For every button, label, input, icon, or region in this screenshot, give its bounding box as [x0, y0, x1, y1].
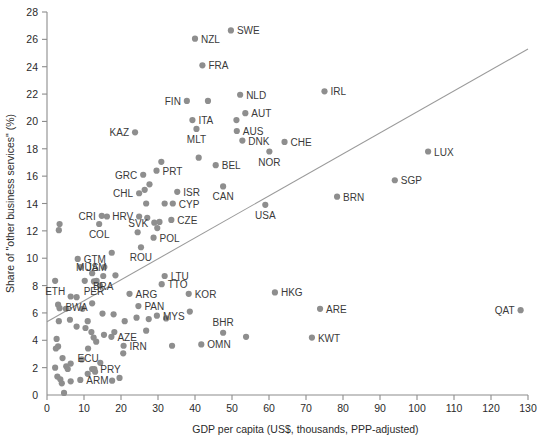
- point-label-mus: MUS: [76, 262, 99, 273]
- data-point: [184, 98, 190, 104]
- data-point: [91, 366, 97, 372]
- y-tick-label: 10: [26, 252, 38, 264]
- x-tick-label: 130: [519, 402, 537, 414]
- data-point: [142, 187, 148, 193]
- x-axis-title: GDP per capita (US$, thousands, PPP-adju…: [192, 423, 418, 435]
- scatter-chart: SWENZLFRANLDFINAUTITAAUSKAZMLTDNKCHENORB…: [0, 0, 542, 441]
- data-point: [133, 315, 139, 321]
- data-point: [120, 350, 126, 356]
- data-point: [198, 341, 204, 347]
- y-tick-label: 14: [26, 198, 38, 210]
- data-point: [143, 328, 149, 334]
- data-point: [138, 244, 144, 250]
- data-point: [88, 329, 94, 335]
- data-point: [169, 343, 175, 349]
- data-point: [199, 62, 205, 68]
- data-point: [116, 375, 122, 381]
- data-point: [101, 332, 107, 338]
- data-point: [93, 339, 99, 345]
- data-point: [317, 306, 323, 312]
- data-point: [234, 128, 240, 134]
- point-label-mlt: MLT: [187, 134, 206, 145]
- data-point: [158, 159, 164, 165]
- point-label-qat: QAT: [495, 305, 515, 316]
- data-point: [77, 377, 83, 383]
- data-point: [52, 278, 58, 284]
- data-point: [193, 126, 199, 132]
- point-label-kwt: KWT: [318, 333, 340, 344]
- data-point: [220, 330, 226, 336]
- point-label-swe: SWE: [237, 25, 260, 36]
- data-point: [82, 278, 88, 284]
- data-point: [65, 366, 71, 372]
- point-label-irl: IRL: [331, 86, 347, 97]
- data-point: [168, 217, 174, 223]
- x-tick-label: 50: [226, 402, 238, 414]
- data-point: [74, 324, 80, 330]
- data-point: [281, 139, 287, 145]
- point-label-col: COL: [89, 229, 110, 240]
- point-label-sgp: SGP: [401, 175, 422, 186]
- data-point: [56, 318, 62, 324]
- x-tick-label: 100: [408, 402, 426, 414]
- point-label-fin: FIN: [165, 96, 181, 107]
- point-label-dnk: DNK: [248, 136, 269, 147]
- data-point: [59, 355, 65, 361]
- data-point: [112, 272, 118, 278]
- data-point: [99, 213, 105, 219]
- point-label-svk: SVK: [128, 218, 148, 229]
- data-point: [56, 305, 62, 311]
- data-point: [187, 308, 193, 314]
- point-label-nzl: NZL: [201, 34, 220, 45]
- data-point: [192, 36, 198, 42]
- data-point: [162, 200, 168, 206]
- data-point: [135, 303, 141, 309]
- x-tick-label: 110: [446, 402, 463, 414]
- data-point: [109, 378, 115, 384]
- point-label-are: ARE: [326, 304, 347, 315]
- data-point: [151, 220, 157, 226]
- data-point: [189, 117, 195, 123]
- data-point: [59, 380, 65, 386]
- plot-area: SWENZLFRANLDFINAUTITAAUSKAZMLTDNKCHENORB…: [0, 0, 542, 441]
- data-point: [120, 343, 126, 349]
- point-label-tto: TTO: [168, 279, 188, 290]
- data-point: [108, 334, 114, 340]
- x-tick-label: 30: [152, 402, 164, 414]
- x-tick-label: 90: [374, 402, 386, 414]
- y-tick-label: 2: [32, 362, 38, 374]
- data-point: [170, 200, 176, 206]
- point-label-che: CHE: [291, 137, 312, 148]
- data-point: [262, 202, 268, 208]
- point-label-nld: NLD: [246, 90, 266, 101]
- y-tick-label: 28: [26, 6, 38, 18]
- data-point: [96, 221, 102, 227]
- point-label-cyp: CYP: [179, 199, 200, 210]
- data-point: [109, 250, 115, 256]
- point-label-aut: AUT: [251, 108, 271, 119]
- point-label-pan: PAN: [144, 301, 164, 312]
- data-point: [85, 318, 91, 324]
- y-tick-label: 20: [26, 115, 38, 127]
- data-point: [111, 311, 117, 317]
- data-point: [518, 307, 524, 313]
- point-label-kor: KOR: [195, 289, 217, 300]
- data-point: [126, 291, 132, 297]
- point-label-hkg: HKG: [281, 287, 303, 298]
- y-tick-label: 16: [26, 170, 38, 182]
- point-label-bwa: BWA: [65, 302, 88, 313]
- data-point: [146, 316, 152, 322]
- data-point: [67, 317, 73, 323]
- point-label-eth: ETH: [45, 286, 65, 297]
- point-label-bel: BEL: [222, 160, 241, 171]
- data-point: [186, 291, 192, 297]
- data-point: [266, 148, 272, 154]
- data-point: [196, 155, 202, 161]
- point-label-brn: BRN: [343, 192, 364, 203]
- trendline: [47, 49, 528, 322]
- data-point: [56, 227, 62, 233]
- y-tick-label: 18: [26, 143, 38, 155]
- x-tick-label: 80: [337, 402, 349, 414]
- x-tick-label: 60: [263, 402, 275, 414]
- y-tick-label: 6: [32, 307, 38, 319]
